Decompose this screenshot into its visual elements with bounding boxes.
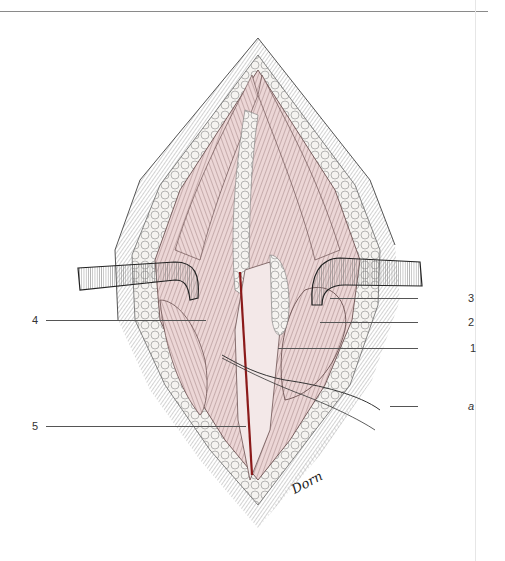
leader-line-4: [46, 320, 206, 321]
label-a: a: [468, 400, 474, 412]
leader-line-a: [390, 406, 418, 407]
leader-line-1: [278, 348, 418, 349]
label-2: 2: [468, 316, 474, 328]
surgical-illustration: [0, 0, 505, 561]
label-3: 3: [468, 292, 474, 304]
leader-line-2: [320, 322, 418, 323]
label-5: 5: [32, 420, 38, 432]
label-4: 4: [32, 314, 38, 326]
leader-line-5: [46, 426, 246, 427]
leader-line-3: [330, 298, 418, 299]
label-1: 1: [470, 342, 476, 354]
